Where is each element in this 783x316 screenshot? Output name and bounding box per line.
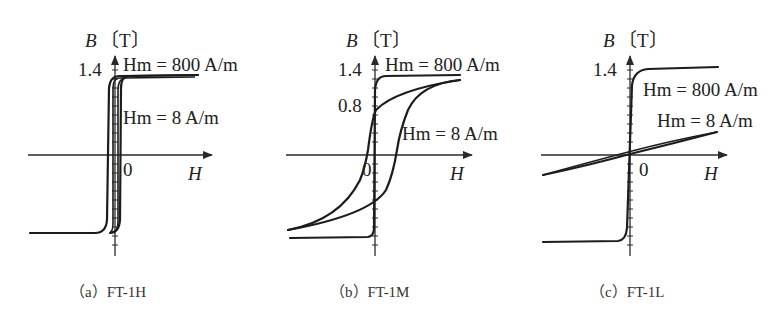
curve-label-hm-8: Hm = 8 A/m	[402, 123, 498, 144]
curve-label-hm-8: Hm = 8 A/m	[123, 107, 219, 128]
origin-label: 0	[362, 159, 372, 180]
hysteresis-figure: B 〔T〕 1.4 0 H Hm = 800 A/m Hm = 8 A/m （a…	[0, 0, 783, 316]
curve-label-hm-800: Hm = 800 A/m	[385, 54, 500, 75]
x-axis-label: H	[187, 163, 203, 184]
origin-label: 0	[123, 159, 133, 180]
x-axis-label: H	[449, 163, 465, 184]
curve-label-hm-800: Hm = 800 A/m	[643, 79, 758, 100]
y-axis-unit: 〔T〕	[100, 30, 150, 51]
caption-b: （b）FT-1M	[330, 284, 409, 300]
panel-c: B 〔T〕 1.4 0 H Hm = 800 A/m Hm = 8 A/m （c…	[541, 30, 758, 300]
curve-hm-800	[290, 75, 460, 238]
curve-hm-800-return	[110, 75, 198, 233]
y-axis-label: B	[346, 30, 358, 51]
y-axis-label: B	[85, 30, 97, 51]
curve-label-hm-800: Hm = 800 A/m	[123, 54, 238, 75]
y-tick-label: 1.4	[78, 59, 102, 80]
panel-a: B 〔T〕 1.4 0 H Hm = 800 A/m Hm = 8 A/m （a…	[28, 30, 238, 300]
y-axis-label: B	[603, 30, 615, 51]
caption-a: （a）FT-1H	[70, 284, 146, 300]
x-axis-label: H	[703, 163, 719, 184]
y-tick-label-1-4: 1.4	[338, 59, 362, 80]
y-tick-label: 1.4	[593, 59, 617, 80]
curve-label-hm-8: Hm = 8 A/m	[657, 110, 753, 131]
y-tick-label-0-8: 0.8	[338, 95, 362, 116]
y-axis-unit: 〔T〕	[618, 30, 668, 51]
caption-c: （c）FT-1L	[590, 284, 664, 300]
y-axis-unit: 〔T〕	[361, 30, 411, 51]
panel-b: B 〔T〕 1.4 0.8 0 H Hm = 800 A/m Hm = 8 A/…	[286, 30, 500, 300]
origin-label: 0	[639, 159, 649, 180]
